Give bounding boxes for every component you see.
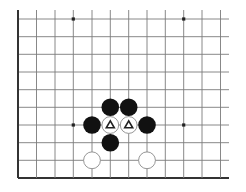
white-stone-icon (120, 117, 137, 134)
grid-lines (18, 10, 229, 178)
black-stone (138, 116, 156, 134)
white-stone-icon (139, 152, 156, 169)
white-stone (120, 117, 137, 134)
stones (83, 99, 156, 169)
white-stone (139, 152, 156, 169)
white-stone (102, 117, 119, 134)
star-point-icon (182, 123, 185, 126)
white-stone-icon (102, 117, 119, 134)
star-point-icon (72, 123, 75, 126)
black-stone (83, 116, 101, 134)
star-point-icon (182, 17, 185, 20)
black-stone-icon (138, 116, 156, 134)
black-stone-icon (120, 99, 138, 117)
black-stone-icon (83, 116, 101, 134)
go-board (0, 0, 246, 192)
black-stone-icon (102, 134, 120, 152)
star-point-icon (72, 17, 75, 20)
black-stone (102, 134, 120, 152)
white-stone (84, 152, 101, 169)
black-stone (102, 99, 120, 117)
white-stone-icon (84, 152, 101, 169)
black-stone-icon (102, 99, 120, 117)
black-stone (120, 99, 138, 117)
